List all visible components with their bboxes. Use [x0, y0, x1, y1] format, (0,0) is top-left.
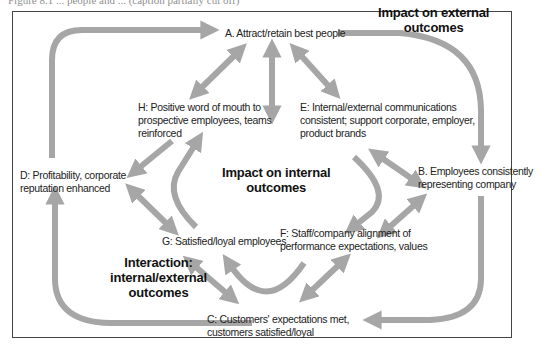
arrow-h-to-d [134, 141, 172, 172]
arrow-b-to-c [372, 196, 481, 320]
arrow-g-to-h [174, 140, 198, 227]
node-e-communications: E: Internal/external communications cons… [300, 101, 475, 140]
node-c-customers: C: Customers' expectations met, customer… [207, 313, 349, 339]
arrow-d-g [132, 190, 172, 229]
node-h-word-of-mouth: H: Positive word of mouth to prospective… [138, 101, 271, 140]
node-f-alignment: F: Staff/company alignment of performanc… [280, 227, 427, 253]
arrow-e-b [376, 154, 418, 183]
node-g-satisfied-employees: G: Satisfied/loyal employees [162, 235, 286, 248]
node-d-profitability: D: Profitability, corporate reputation e… [20, 169, 126, 195]
heading-internal-impact: Impact on internal outcomes [222, 165, 330, 195]
heading-interaction: Interaction: internal/external outcomes [110, 255, 207, 300]
arrow-a-h [196, 50, 240, 93]
arrow-f-to-g [228, 262, 304, 291]
node-b-employees-representing: B. Employees consistently representing c… [418, 165, 533, 191]
node-a-attract-retain: A. Attract/retain best people [225, 27, 345, 40]
heading-external-impact: Impact on external outcomes [378, 5, 489, 35]
arrow-f-c [306, 260, 344, 296]
arrow-a-e [296, 50, 334, 92]
arrow-e-to-f [352, 157, 379, 228]
